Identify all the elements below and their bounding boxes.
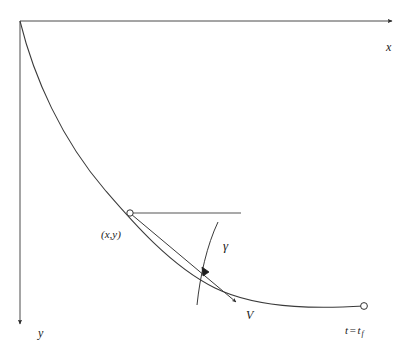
final-time-label: t=tf	[344, 325, 364, 338]
trajectory-diagram-svg	[0, 0, 403, 353]
x-axis-label: x	[386, 41, 391, 53]
figure-canvas: x y (x,y) γ V t=tf	[0, 0, 403, 353]
flight-path-angle-label: γ	[223, 239, 228, 252]
velocity-vector-line	[131, 214, 236, 302]
point-coordinates-label: (x,y)	[101, 229, 121, 240]
trajectory-curve	[20, 21, 364, 307]
y-axis-label: y	[38, 327, 43, 339]
angle-direction-marker	[202, 267, 209, 276]
velocity-vector-label: V	[246, 309, 253, 321]
final-time-equals: =	[349, 324, 356, 336]
point-marker-final	[361, 303, 368, 310]
final-time-subscript: f	[362, 329, 364, 338]
point-marker-xy	[127, 210, 133, 216]
flight-path-angle-arc	[197, 222, 218, 305]
